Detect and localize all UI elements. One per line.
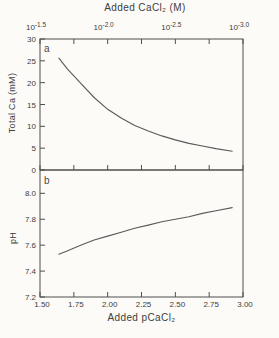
panel-b-ytick-label: 7.6 <box>25 241 37 250</box>
ph-curve <box>59 208 232 255</box>
panel-a-border <box>40 39 243 170</box>
panel-a-ytick-label: 5 <box>32 144 37 153</box>
bottom-tick-label: 2.50 <box>170 300 186 309</box>
total-ca-curve <box>59 58 232 151</box>
bottom-tick-label: 1.75 <box>68 300 84 309</box>
top-tick-label: 10-1.5 <box>26 21 46 33</box>
top-tick-label: 10-3.0 <box>229 21 249 33</box>
panel-b-ytick-label: 7.2 <box>25 293 37 302</box>
bottom-tick-label: 3.00 <box>237 300 253 309</box>
panel-b-border <box>40 170 243 297</box>
panel-a-ytick-label: 0 <box>32 166 37 175</box>
panel-a-ytick-label: 30 <box>27 35 36 44</box>
panel-a-ytick-label: 25 <box>27 57 36 66</box>
top-tick-label: 10-2.5 <box>161 21 181 33</box>
panel-a-ytick-label: 20 <box>27 79 36 88</box>
panel-b-ytick-label: 7.8 <box>25 215 37 224</box>
panel-a-ytick-label: 10 <box>27 122 36 131</box>
panel-b-ytick-label: 7.4 <box>25 267 37 276</box>
panel-b-ytick-label: 8.0 <box>25 189 37 198</box>
bottom-tick-label: 2.75 <box>203 300 219 309</box>
panel-a-ytick-label: 15 <box>27 101 36 110</box>
two-panel-chart-figure: Added CaCl₂ (M) Total Ca (mM) pH a b 1.5… <box>0 0 279 338</box>
top-tick-label: 10-2.0 <box>94 21 114 33</box>
chart-canvas: 1.501.752.002.252.502.753.0010-1.510-2.0… <box>0 0 279 338</box>
bottom-axis-title: Added pCaCl₂ <box>40 312 243 323</box>
bottom-tick-label: 1.50 <box>34 300 50 309</box>
bottom-tick-label: 2.25 <box>136 300 152 309</box>
bottom-tick-label: 2.00 <box>102 300 118 309</box>
